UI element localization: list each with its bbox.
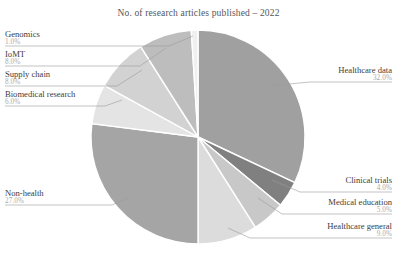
callout-supply-chain: Supply chain 8.0% [5,70,50,87]
pie-slice[interactable] [91,124,198,244]
callout-iomt-value: 8.0% [5,59,25,67]
pie-chart-figure: No. of research articles published – 202… [0,0,397,261]
callout-clinical-trials-value: 4.0% [345,185,392,193]
callout-clinical-trials: Clinical trials 4.0% [345,176,392,193]
callout-genomics: Genomics 1.0% [5,30,40,47]
pie-slice-group [91,30,305,244]
callout-non-health: Non-health 27.0% [5,189,44,206]
callout-genomics-value: 1.0% [5,39,40,47]
callout-medical-education-value: 5.0% [328,207,392,215]
callout-medical-education: Medical education 5.0% [328,198,392,215]
callout-iomt: IoMT 8.0% [5,50,25,67]
callout-healthcare-general: Healthcare general 9.0% [327,222,392,239]
callout-supply-chain-value: 8.0% [5,79,50,87]
callout-non-health-value: 27.0% [5,198,44,206]
callout-healthcare-data: Healthcare data 32.0% [338,66,392,83]
callout-healthcare-data-value: 32.0% [338,75,392,83]
callout-biomedical-research: Biomedical research 6.0% [5,90,75,107]
callout-healthcare-general-value: 9.0% [327,231,392,239]
callout-biomedical-research-value: 6.0% [5,99,75,107]
